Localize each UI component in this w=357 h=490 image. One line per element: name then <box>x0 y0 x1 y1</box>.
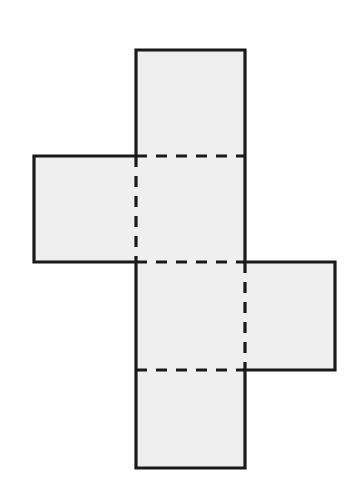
face-front-upper <box>136 156 245 262</box>
face-front-lower <box>136 262 245 370</box>
cube-net-svg <box>0 0 357 490</box>
face-left <box>34 156 136 262</box>
face-right <box>245 262 335 370</box>
face-bottom <box>136 370 245 468</box>
face-top <box>136 50 245 156</box>
cube-net-figure <box>0 0 357 490</box>
